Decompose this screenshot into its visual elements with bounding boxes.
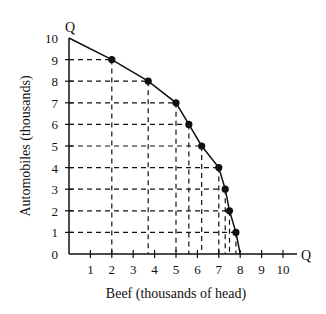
data-point — [226, 207, 233, 214]
x-tick-label: 4 — [151, 262, 158, 277]
y-tick-label: 6 — [52, 117, 59, 132]
data-point — [232, 229, 239, 236]
y-axis-end-label: Q — [65, 20, 75, 35]
x-tick-label: 6 — [194, 262, 201, 277]
x-tick-label: 3 — [130, 262, 137, 277]
y-tick-label: 10 — [45, 31, 58, 46]
x-tick-label: 8 — [237, 262, 244, 277]
y-tick-label: 4 — [52, 161, 59, 176]
y-tick-label: 8 — [52, 74, 59, 89]
data-point — [108, 56, 115, 63]
data-point — [198, 142, 205, 149]
x-tick-label: 2 — [109, 262, 116, 277]
y-tick-label: 7 — [52, 96, 59, 111]
y-tick-label: 2 — [52, 204, 59, 219]
data-point — [172, 99, 179, 106]
x-tick-label: 5 — [173, 262, 180, 277]
data-point — [185, 121, 192, 128]
y-axis-title: Automobiles (thousands) — [18, 75, 34, 216]
x-tick-label: 9 — [258, 262, 265, 277]
y-tick-label: 0 — [52, 247, 59, 262]
x-tick-label: 1 — [87, 262, 94, 277]
x-tick-label: 10 — [277, 262, 290, 277]
data-point — [145, 78, 152, 85]
x-axis-title: Beef (thousands of head) — [106, 286, 247, 302]
x-axis-end-label: Q — [301, 248, 311, 263]
y-tick-label: 1 — [52, 225, 59, 240]
data-point — [215, 164, 222, 171]
x-tick-label: 7 — [216, 262, 223, 277]
y-tick-label: 3 — [52, 182, 59, 197]
ppf-chart: 12345678910012345678910QQBeef (thousands… — [0, 0, 326, 314]
y-tick-label: 5 — [52, 139, 59, 154]
y-tick-label: 9 — [52, 53, 59, 68]
data-point — [222, 186, 229, 193]
